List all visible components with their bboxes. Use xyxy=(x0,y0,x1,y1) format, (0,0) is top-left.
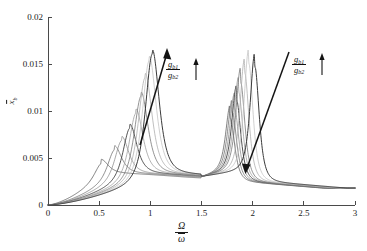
chart-curve xyxy=(48,50,355,205)
y-tick-label: 0 xyxy=(39,200,44,210)
y-tick-label: 0.01 xyxy=(27,106,43,116)
x-tick-label: 1.5 xyxy=(196,208,208,218)
x-tick-label: 0.5 xyxy=(94,208,106,218)
chart-curve xyxy=(48,50,355,205)
right-den-sub: b2 xyxy=(298,69,304,75)
y-axis-label-sub: b xyxy=(12,97,18,100)
stiffness-ratio-fraction-left: gb1 gb2 xyxy=(166,60,180,80)
right-num-sub: b1 xyxy=(298,59,304,65)
left-num-sub: b1 xyxy=(172,64,178,70)
chart-canvas: 00.0050.010.0150.0200.511.522.53 xyxy=(0,0,367,251)
left-den-sub: b2 xyxy=(172,74,178,80)
right-annotation-up-arrow xyxy=(319,53,324,75)
x-tick-label: 3 xyxy=(353,208,358,218)
y-tick-label: 0.015 xyxy=(23,59,44,69)
y-axis-label-base: x xyxy=(6,100,16,104)
y-axis-label: xb xyxy=(6,87,18,115)
chart-curve xyxy=(48,59,355,205)
x-tick-label: 2 xyxy=(250,208,255,218)
x-axis-label: Ω ω xyxy=(175,220,188,244)
chart-curve xyxy=(48,93,355,205)
x-tick-label: 2.5 xyxy=(298,208,310,218)
stiffness-ratio-fraction-right: gb1 gb2 xyxy=(292,55,306,75)
left-annotation-up-arrow xyxy=(193,58,198,80)
figure-container: 00.0050.010.0150.0200.511.522.53 gb1 gb2… xyxy=(0,0,367,251)
y-tick-label: 0.005 xyxy=(23,153,44,163)
x-tick-label: 1 xyxy=(148,208,153,218)
x-axis-label-denominator: ω xyxy=(178,233,185,244)
chart-curve xyxy=(48,101,355,205)
curve-series-group xyxy=(48,50,355,205)
annotation-right-trend: gb1 gb2 xyxy=(292,55,306,75)
y-tick-label: 0.02 xyxy=(27,12,43,22)
annotation-left-trend: gb1 gb2 xyxy=(166,60,180,80)
x-tick-label: 0 xyxy=(46,208,51,218)
x-axis-label-numerator: Ω xyxy=(178,220,185,231)
